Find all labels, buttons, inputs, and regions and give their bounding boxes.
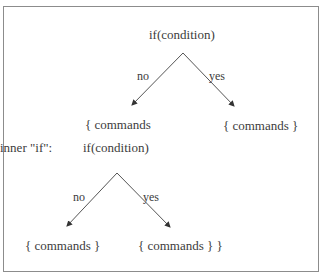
inner-no-label: no xyxy=(73,189,85,205)
inner-caption: inner "if": xyxy=(0,140,52,156)
outer-condition: if(condition) xyxy=(149,27,215,43)
inner-condition: if(condition) xyxy=(83,140,149,156)
outer-yes-label: yes xyxy=(209,68,225,84)
inner-yes-label: yes xyxy=(143,189,159,205)
outer-no-branch: { commands xyxy=(85,117,151,133)
inner-no-branch: { commands } xyxy=(25,238,100,254)
outer-yes-branch: { commands } xyxy=(223,118,298,134)
inner-yes-branch: { commands } } xyxy=(138,238,223,254)
outer-no-label: no xyxy=(137,68,149,84)
